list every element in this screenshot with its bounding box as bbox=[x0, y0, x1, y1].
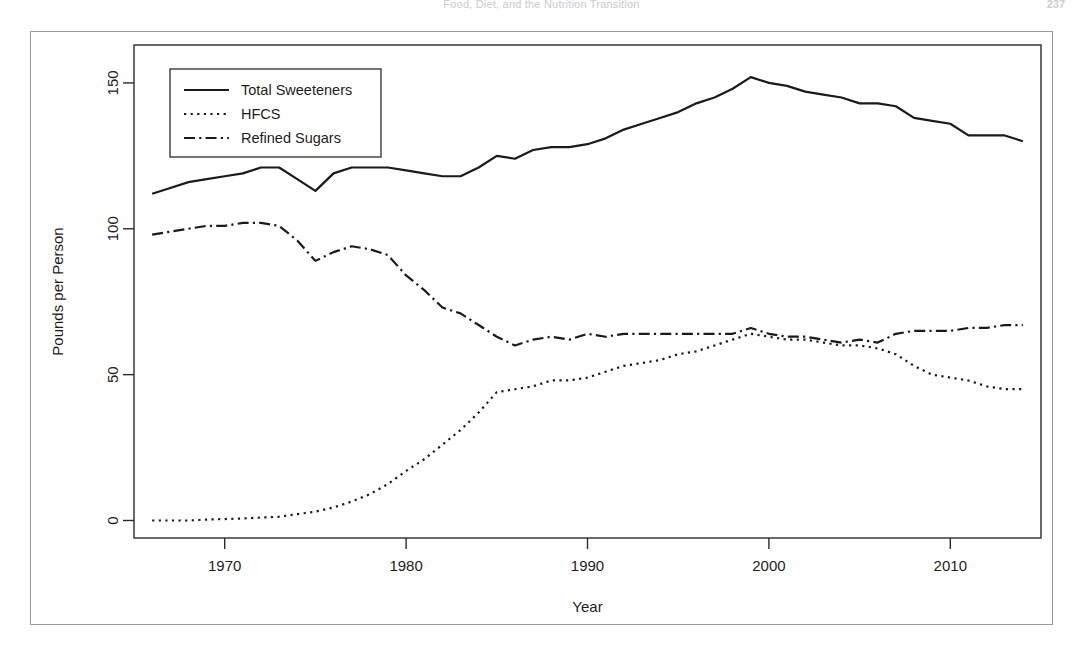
x-axis-tick-label: 2000 bbox=[752, 557, 785, 574]
y-axis-title: Pounds per Person bbox=[49, 227, 66, 355]
y-axis-tick-label: 50 bbox=[104, 366, 121, 383]
x-axis-tick-label: 1980 bbox=[389, 557, 422, 574]
line-chart: 05010015019701980199020002010YearPounds … bbox=[31, 32, 1054, 626]
x-axis-tick-label: 2010 bbox=[934, 557, 967, 574]
figure-frame: 05010015019701980199020002010YearPounds … bbox=[30, 31, 1053, 625]
series-line-hfcs bbox=[152, 334, 1023, 521]
plot-layer: 05010015019701980199020002010YearPounds … bbox=[49, 45, 1041, 615]
y-axis-tick-label: 100 bbox=[104, 216, 121, 241]
y-axis-tick-label: 150 bbox=[104, 70, 121, 95]
series-line-refined-sugars bbox=[152, 223, 1023, 346]
chart-canvas: 05010015019701980199020002010YearPounds … bbox=[31, 32, 1054, 626]
page-number: 237 bbox=[1047, 0, 1065, 10]
y-axis-tick-label: 0 bbox=[104, 516, 121, 524]
x-axis-tick-label: 1990 bbox=[571, 557, 604, 574]
x-axis-tick-label: 1970 bbox=[208, 557, 241, 574]
legend-label-refined-sugars: Refined Sugars bbox=[241, 130, 341, 146]
page-running-header: Food, Diet, and the Nutrition Transition… bbox=[0, 0, 1083, 14]
running-head-text: Food, Diet, and the Nutrition Transition bbox=[0, 0, 1083, 10]
x-axis-title: Year bbox=[572, 598, 602, 615]
legend-label-hfcs: HFCS bbox=[241, 106, 280, 122]
legend-label-total-sweeteners: Total Sweeteners bbox=[241, 82, 352, 98]
